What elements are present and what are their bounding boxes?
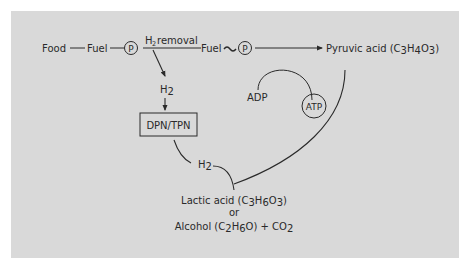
phosphate-label: P bbox=[128, 44, 134, 54]
h2-return-label: H2 bbox=[198, 159, 212, 172]
carrier-to-h2-curve bbox=[174, 140, 191, 163]
h2-label: H2 bbox=[160, 84, 174, 97]
adp-label: ADP bbox=[247, 92, 268, 103]
h2-removal-sub: 2 bbox=[152, 40, 156, 48]
pyruvic-label: Pyruvic acid (C3H4O3) bbox=[326, 43, 439, 56]
h2-to-products-curve bbox=[213, 166, 234, 190]
glycolysis-diagram: Food Fuel P H 2 removal Fuel P Pyruvic a… bbox=[0, 0, 468, 270]
carrier-label: DPN/TPN bbox=[146, 120, 190, 131]
phosphate-2-label: P bbox=[242, 44, 248, 54]
atp-label: ATP bbox=[306, 102, 323, 112]
food-label: Food bbox=[42, 43, 66, 54]
alcohol-label: Alcohol (C2H6O) + CO2 bbox=[175, 221, 294, 234]
fuel-label: Fuel bbox=[87, 43, 107, 54]
h2-removal-suffix: removal bbox=[157, 35, 198, 46]
or-label: or bbox=[229, 207, 240, 218]
pyruvic-to-products-curve bbox=[234, 70, 345, 184]
fuel-2-label: Fuel bbox=[201, 43, 221, 54]
high-energy-bond-icon bbox=[224, 47, 236, 51]
arrow-h2-down bbox=[153, 50, 165, 76]
